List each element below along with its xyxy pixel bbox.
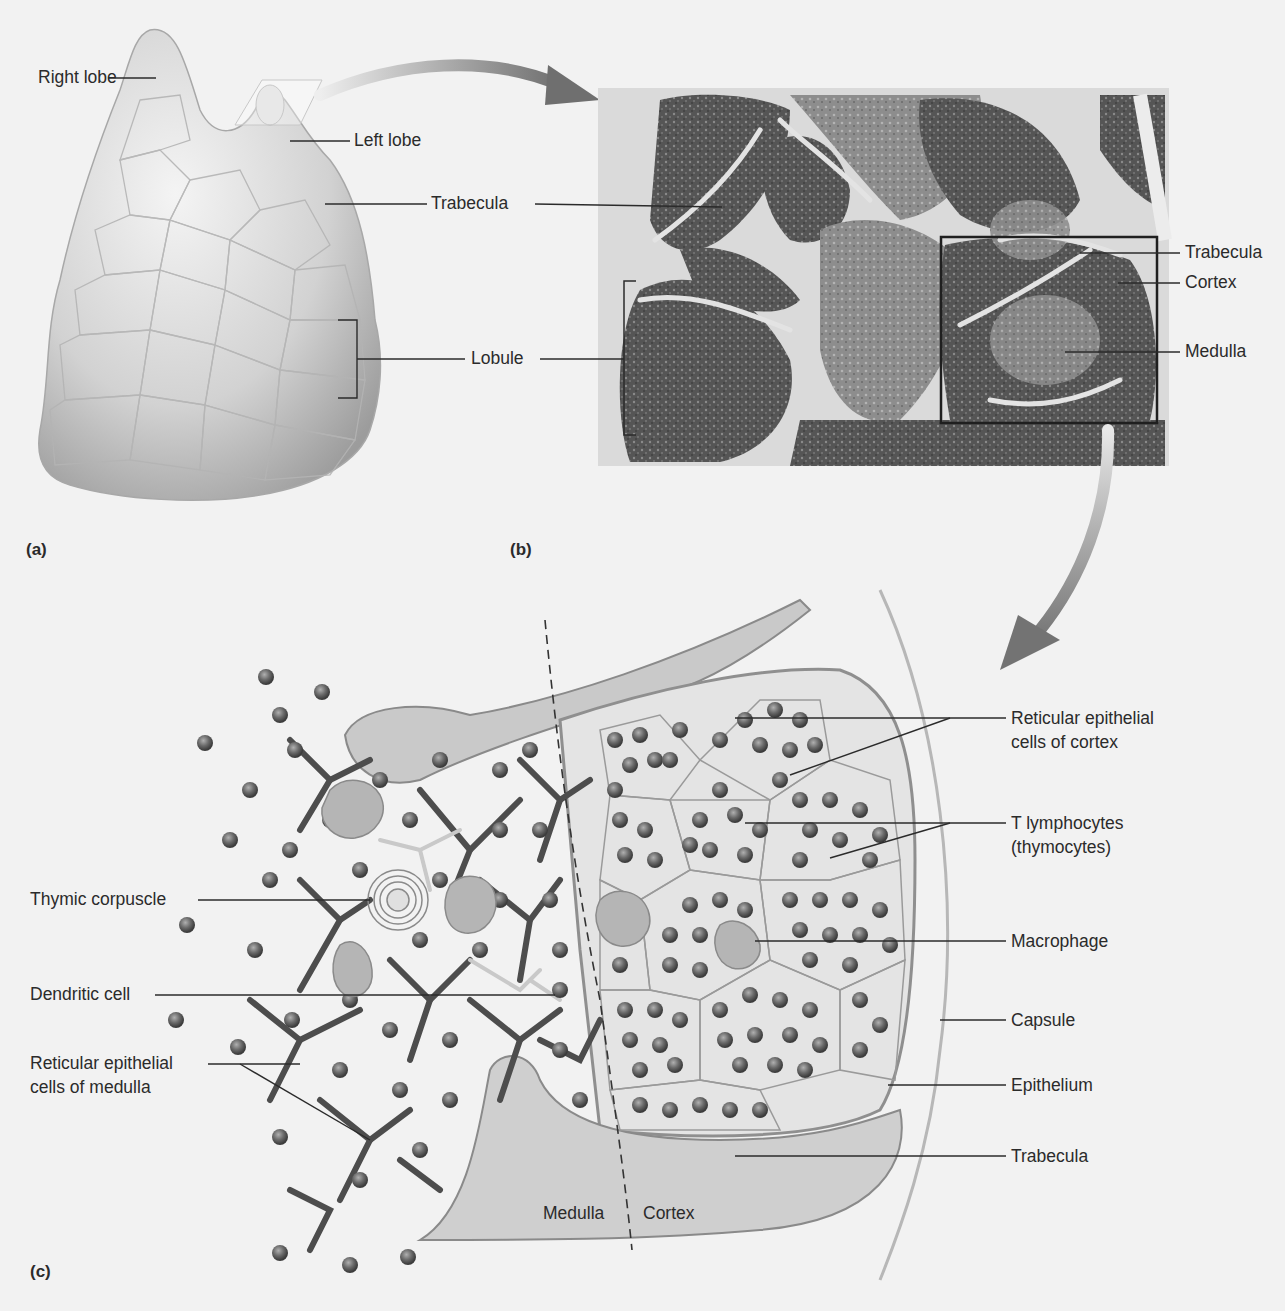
label-region-cortex: Cortex bbox=[643, 1203, 695, 1224]
arrow-a-to-b bbox=[320, 65, 560, 95]
arrow-a-to-b-head bbox=[545, 65, 600, 105]
label-trabecula-b: Trabecula bbox=[1185, 242, 1262, 263]
panel-label-b: (b) bbox=[510, 540, 532, 560]
label-left-lobe: Left lobe bbox=[354, 130, 421, 151]
thymic-lobule-illustration bbox=[168, 590, 948, 1280]
label-macrophage: Macrophage bbox=[1011, 931, 1108, 952]
panel-label-a: (a) bbox=[26, 540, 47, 560]
label-cortex-b: Cortex bbox=[1185, 272, 1237, 293]
panel-label-c: (c) bbox=[30, 1262, 51, 1282]
label-thymic-corpuscle: Thymic corpuscle bbox=[30, 889, 166, 910]
label-t-lymphocytes-line1: T lymphocytes bbox=[1011, 813, 1124, 834]
label-dendritic-cell: Dendritic cell bbox=[30, 984, 130, 1005]
label-reticular-cortex-line2: cells of cortex bbox=[1011, 732, 1118, 753]
label-reticular-medulla-line1: Reticular epithelial bbox=[30, 1053, 173, 1074]
label-lobule: Lobule bbox=[471, 348, 524, 369]
label-region-medulla: Medulla bbox=[543, 1203, 604, 1224]
label-medulla-b: Medulla bbox=[1185, 341, 1246, 362]
label-trabecula-c: Trabecula bbox=[1011, 1146, 1088, 1167]
label-capsule: Capsule bbox=[1011, 1010, 1075, 1031]
label-right-lobe: Right lobe bbox=[38, 67, 117, 88]
label-trabecula-a: Trabecula bbox=[431, 193, 508, 214]
label-t-lymphocytes-line2: (thymocytes) bbox=[1011, 837, 1111, 858]
label-reticular-medulla-line2: cells of medulla bbox=[30, 1077, 151, 1098]
label-epithelium: Epithelium bbox=[1011, 1075, 1093, 1096]
thymic-corpuscle bbox=[368, 870, 428, 930]
thymus-micrograph bbox=[598, 88, 1169, 466]
figure-artwork bbox=[0, 0, 1285, 1311]
thymus-gross-illustration bbox=[39, 30, 381, 501]
label-reticular-cortex-line1: Reticular epithelial bbox=[1011, 708, 1154, 729]
